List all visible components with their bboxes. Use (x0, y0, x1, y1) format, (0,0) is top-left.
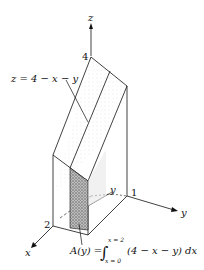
solid-volume-diagram: z 4 z = 4 − x − y y 1 y 2 x A(y) = ∫ x =… (0, 0, 204, 270)
slice-y-label: y (109, 184, 116, 195)
integrand: (4 − x − y) dx (127, 245, 198, 256)
y-axis-label: y (180, 207, 187, 218)
diagram-canvas: z 4 z = 4 − x − y y 1 y 2 x A(y) = ∫ x =… (0, 0, 204, 270)
z-axis-label: z (87, 12, 94, 23)
x-tick-2: 2 (44, 219, 50, 230)
lower-limit: x = 0 (105, 257, 121, 264)
z-tick-4: 4 (82, 51, 88, 62)
upper-limit: x = 2 (108, 236, 124, 243)
y-tick-1: 1 (131, 187, 137, 198)
surface-equation-label: z = 4 − x − y (10, 73, 78, 84)
y-axis (127, 196, 178, 212)
area-formula: A(y) = ∫ x = 2 x = 0 (4 − x − y) dx (69, 236, 198, 264)
formula-lhs: A(y) = (69, 245, 102, 256)
x-axis-label: x (25, 247, 31, 258)
